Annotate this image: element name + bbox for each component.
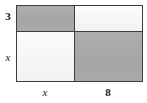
region-bottom-left <box>17 32 74 81</box>
region-top-right <box>75 6 142 31</box>
area-model-figure: 3 x x 8 <box>0 0 147 103</box>
dimension-label-left-bottom: x <box>2 52 14 63</box>
dimension-label-bottom-right: 8 <box>74 87 142 98</box>
region-bottom-right <box>75 32 142 81</box>
region-top-left <box>17 6 74 31</box>
dimension-label-left-top: 3 <box>2 11 14 22</box>
rectangle-area-model <box>16 5 143 82</box>
dimension-label-bottom-left: x <box>17 87 73 98</box>
